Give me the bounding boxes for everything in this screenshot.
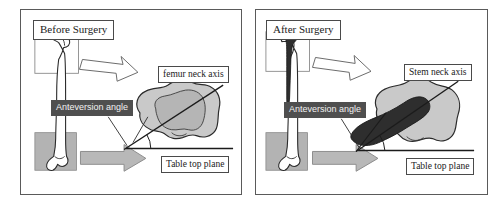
panel-title-after: After Surgery	[266, 20, 341, 40]
stem-neck-axis-label: Stem neck axis	[404, 64, 472, 81]
anteversion-angle-arc	[147, 135, 151, 149]
anteversion-angle-label: Anteversion angle	[51, 100, 133, 116]
table-top-plane-label: Table top plane	[406, 158, 474, 175]
table-top-plane-label: Table top plane	[161, 156, 229, 173]
femur-neck-axis-label: femur neck axis	[158, 66, 229, 83]
panel-title-before: Before Surgery	[33, 20, 114, 40]
anteversion-angle-label: Anteversion angle	[284, 102, 366, 118]
proximal-view-arrow	[313, 56, 371, 81]
anteversion-comparison-figure: Before Surgery femur neck axis Anteversi…	[0, 0, 502, 212]
distal-view-arrow	[313, 145, 378, 172]
panel-after-surgery: After Surgery Stem neck axis Anteversion…	[255, 9, 488, 195]
panel-before-surgery: Before Surgery femur neck axis Anteversi…	[20, 9, 242, 195]
proximal-view-arrow	[79, 56, 137, 81]
anteversion-leader-line-a	[108, 117, 127, 146]
